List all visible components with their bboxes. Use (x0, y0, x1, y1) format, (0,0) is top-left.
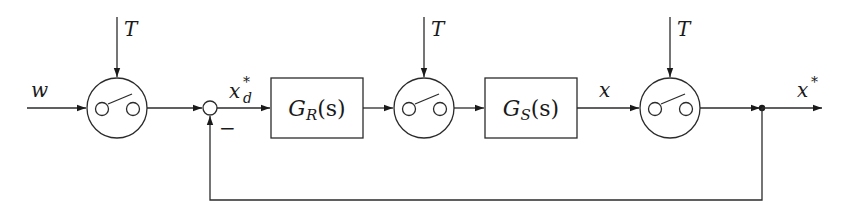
sum-circle (203, 101, 217, 115)
sampler-2: T (394, 17, 454, 138)
plant-label: GS(s) (503, 96, 559, 124)
plant-block: GS(s) (485, 78, 577, 138)
switch-contact-right-3 (680, 103, 693, 116)
controller-main: G (288, 96, 306, 121)
error-label-main: x (229, 79, 240, 103)
error-label-sub: d (243, 90, 252, 106)
clock-label-1: T (124, 17, 139, 41)
controller-block: GR(s) (271, 78, 363, 138)
block-diagram: w T − x d * GR(s) T (0, 0, 848, 217)
plant-sub: S (520, 106, 530, 124)
switch-contact-left-1 (96, 103, 109, 116)
clock-label-3: T (677, 17, 692, 41)
plant-arg: (s) (531, 96, 559, 121)
switch-contact-right-2 (434, 103, 447, 116)
switch-contact-left-2 (403, 103, 416, 116)
controller-label: GR(s) (288, 96, 345, 124)
sampler-1: T (87, 17, 147, 138)
switch-contact-left-3 (649, 103, 662, 116)
output-label-sup: * (811, 74, 818, 90)
controller-arg: (s) (317, 96, 345, 121)
plant-output-label: x (599, 78, 610, 102)
output-label-main: x (797, 78, 808, 102)
sampler-3: T (640, 17, 700, 138)
feedback-sign: − (219, 116, 236, 140)
input-signal: w (27, 78, 86, 108)
switch-contact-right-1 (127, 103, 140, 116)
controller-sub: R (305, 106, 317, 124)
plant-main: G (503, 96, 521, 121)
clock-label-2: T (431, 17, 446, 41)
output-signal-label: x * (797, 74, 818, 102)
error-signal-label: x d * (229, 74, 252, 106)
error-label-sup: * (243, 74, 250, 90)
summing-junction: − (203, 101, 236, 140)
input-label: w (31, 78, 48, 102)
